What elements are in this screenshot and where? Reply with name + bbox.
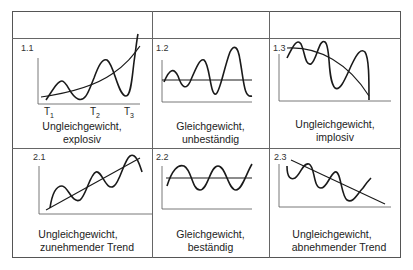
panel-caption: Ungleichgewicht, explosiv (12, 120, 152, 146)
panel-caption: Gleichgewicht, unbeständig (152, 120, 269, 146)
panel-1-2: 1.2 Gleichgewicht, unbeständig (152, 38, 269, 148)
panel-1-1: 1.1 T1 T2 T3 Ungleichgewicht, explosiv (12, 38, 152, 148)
panel-1-3: 1.3 Ungleichgewicht, implosiv (269, 38, 401, 148)
panel-caption: Gleichgewicht, beständig (152, 228, 269, 254)
panel-caption: Ungleichgewicht, abnehmender Trend (269, 228, 401, 254)
tick-t3: T3 (124, 106, 134, 119)
panel-2-3: 2.3 Ungleichgewicht, abnehmender Trend (269, 148, 401, 258)
panel-2-2: 2.2 Gleichgewicht, beständig (152, 148, 269, 258)
panel-caption: Ungleichgewicht, zunehmender Trend (12, 228, 152, 254)
panel-2-1: 2.1 Ungleichgewicht, zunehmender Trend (12, 148, 152, 258)
tick-t2: T2 (90, 106, 100, 119)
panel-caption: Ungleichgewicht, implosiv (269, 118, 401, 144)
tick-t1: T1 (44, 106, 54, 119)
